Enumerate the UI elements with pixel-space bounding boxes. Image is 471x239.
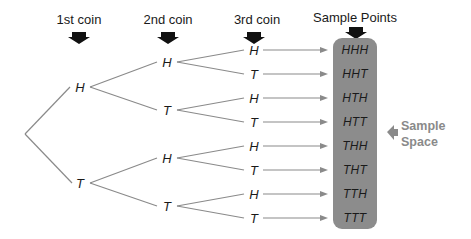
header-sample-points: Sample Points bbox=[313, 10, 397, 25]
sample-point: HTT bbox=[343, 115, 367, 129]
sample-point: THT bbox=[343, 163, 367, 177]
node-l2: T bbox=[163, 103, 171, 118]
node-l3: H bbox=[249, 43, 258, 58]
node-l2: T bbox=[163, 199, 171, 214]
header-3rd-coin: 3rd coin bbox=[234, 12, 280, 27]
node-l2: H bbox=[162, 55, 171, 70]
node-l3: T bbox=[250, 163, 258, 178]
arrowheads bbox=[320, 47, 328, 221]
node-l1-h: H bbox=[75, 80, 84, 95]
node-l3: H bbox=[249, 139, 258, 154]
header-1st-coin: 1st coin bbox=[57, 12, 102, 27]
node-l3: T bbox=[250, 211, 258, 226]
node-l3: T bbox=[250, 115, 258, 130]
sample-point: HTH bbox=[342, 91, 368, 105]
sample-space-label-line1: Sample bbox=[401, 118, 445, 134]
arrow-down-icon bbox=[157, 32, 179, 44]
sample-point: TTT bbox=[344, 211, 367, 225]
node-l1-t: T bbox=[76, 176, 84, 191]
sample-point: HHT bbox=[342, 67, 368, 81]
arrow-left-icon bbox=[387, 125, 398, 140]
sample-point: TTH bbox=[343, 187, 367, 201]
node-l3: H bbox=[249, 187, 258, 202]
sample-space-label-line2: Space bbox=[401, 134, 445, 150]
header-2nd-coin: 2nd coin bbox=[143, 12, 192, 27]
node-l3: T bbox=[250, 67, 258, 82]
arrow-down-icon bbox=[68, 32, 90, 44]
node-l2: H bbox=[162, 151, 171, 166]
sample-point: THH bbox=[342, 139, 368, 153]
node-l3: H bbox=[249, 91, 258, 106]
sample-space-label: Sample Space bbox=[401, 118, 445, 150]
sample-point: HHH bbox=[342, 43, 369, 57]
